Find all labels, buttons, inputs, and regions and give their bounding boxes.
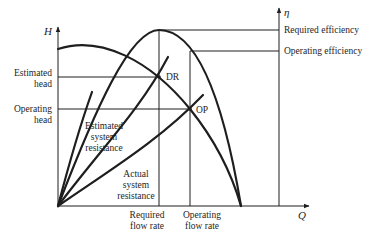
pump-diagram: H η Q DR OP Estimated head Operating hea… [0,0,374,241]
operating-flow-rate-label-1: Operating [183,210,221,220]
operating-flow-rate-label-2: flow rate [185,221,219,231]
estimated-resistance-label-3: resistance [85,143,122,153]
operating-head-label-1: Operating [14,104,52,114]
operating-head-label-2: head [34,115,52,125]
operating-efficiency-label: Operating efficiency [284,46,362,56]
required-flow-rate-label-1: Required [130,210,165,220]
actual-resistance-label-3: resistance [117,191,154,201]
design-point-marker [157,75,161,79]
design-point-label: DR [166,72,180,82]
estimated-head-label-1: Estimated [14,68,52,78]
operating-point-marker [188,107,192,111]
efficiency-curve [58,30,241,206]
h-axis-label: H [43,25,53,37]
operating-point-label: OP [196,105,208,115]
required-efficiency-label: Required efficiency [284,25,359,35]
actual-resistance-label-2: system [123,180,150,190]
q-axis-label: Q [298,209,306,221]
estimated-resistance-label-2: system [91,132,118,142]
required-flow-rate-label-2: flow rate [130,221,164,231]
actual-resistance-label-1: Actual [123,169,149,179]
estimated-resistance-label-1: Estimated [85,121,123,131]
estimated-head-label-2: head [34,79,52,89]
efficiency-axis-label: η [284,6,289,18]
